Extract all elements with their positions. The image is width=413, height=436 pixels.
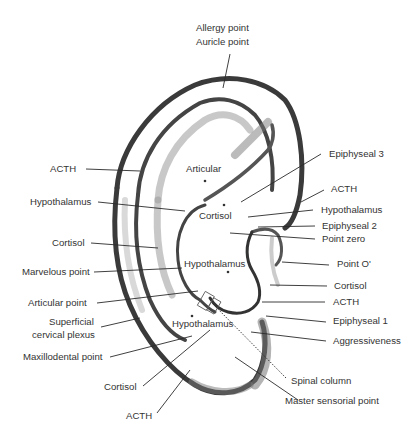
- label-cortisol-bottom: Cortisol: [104, 381, 137, 392]
- label-hypothalamus-left: Hypothalamus: [30, 196, 91, 207]
- label-point-zero: Point zero: [322, 233, 365, 244]
- label-acth-right-upper: ACTH: [331, 183, 357, 194]
- label-cortisol-inner: Cortisol: [199, 210, 232, 221]
- label-hypothalamus-inner: Hypothalamus: [184, 258, 245, 269]
- label-epiphyseal-3: Epiphyseal 3: [329, 148, 384, 159]
- label-acth-bottom: ACTH: [126, 410, 152, 421]
- label-articular-inner: Articular: [186, 163, 221, 174]
- label-epiphyseal-2: Epiphyseal 2: [322, 220, 377, 231]
- label-hypothalamus-right: Hypothalamus: [321, 204, 382, 215]
- label-point-o-prime: Point O': [337, 258, 371, 269]
- label-cortisol-left: Cortisol: [52, 237, 85, 248]
- label-allergy-point: Allergy point: [196, 22, 249, 33]
- label-maxillodental-point: Maxillodental point: [23, 351, 102, 362]
- label-spinal-column: Spinal column: [291, 375, 351, 386]
- label-superficial: Superficial: [49, 316, 94, 327]
- label-epiphyseal-1: Epiphyseal 1: [333, 315, 388, 326]
- label-hypothalamus-lobe: Hypothalamus: [172, 318, 233, 329]
- label-articular-point: Articular point: [28, 297, 87, 308]
- label-master-sensorial-point: Master sensorial point: [285, 395, 379, 406]
- label-cervical-plexus: cervical plexus: [32, 329, 95, 340]
- label-acth-right-lower: ACTH: [333, 296, 359, 307]
- label-aggressiveness: Aggressiveness: [333, 335, 401, 346]
- label-acth-upper-left: ACTH: [50, 163, 76, 174]
- label-auricle-point: Auricle point: [196, 36, 249, 47]
- label-marvelous-point: Marvelous point: [22, 266, 90, 277]
- label-cortisol-right: Cortisol: [334, 280, 367, 291]
